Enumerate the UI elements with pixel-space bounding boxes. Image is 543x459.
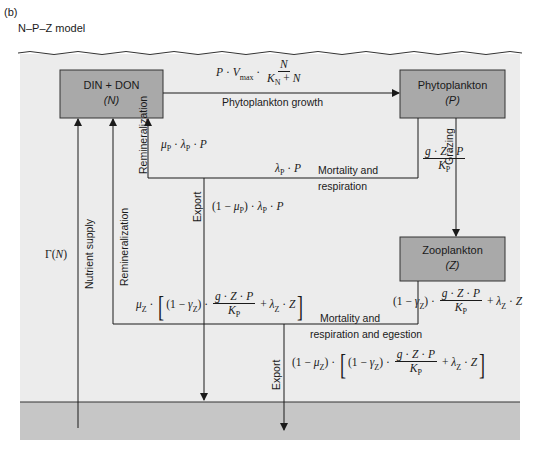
zoo-mortality-label-2: respiration and egestion [310, 328, 422, 340]
zooplankton-box-label: Zooplankton (Z) [400, 243, 505, 273]
nutrient-box-title: DIN + DON [60, 78, 163, 93]
phytoplankton-box-title: Phytoplankton [400, 78, 505, 93]
zoo-export-formula: (1 − μZ) · [(1 − γZ) · g · Z · PKP + λZ … [292, 348, 487, 379]
phyto-remin-label: Remineralization [137, 96, 149, 174]
supply-formula: Γ(N) [45, 248, 67, 260]
zooplankton-box-symbol: (Z) [400, 258, 505, 273]
deep-layer [20, 402, 520, 440]
phyto-mortality-label-2: respiration [318, 180, 367, 192]
phyto-export-formula: (1 − μP) · λP · P [212, 200, 284, 215]
zoo-export-label: Export [270, 360, 282, 390]
phyto-export-label: Export [191, 192, 203, 222]
zoo-remin-label: Remineralization [118, 208, 130, 286]
phyto-remin-formula: μP · λP · P [161, 138, 207, 153]
zoo-remin-formula: μZ · [(1 − γZ) · g · Z · PKP + λZ · Z] [136, 290, 305, 321]
phyto-mortality-label-1: Mortality and [318, 164, 378, 176]
growth-label: Phytoplankton growth [222, 96, 323, 108]
grazing-formula: g · Z · PKP [421, 145, 467, 176]
phyto-mortality-formula: λP · P [275, 162, 301, 177]
supply-label: Nutrient supply [83, 219, 95, 289]
zoo-mortality-label-1: Mortality and [320, 312, 380, 324]
zoo-mortality-formula: (1 − γZ) · g · Z · PKP + λZ · Z [393, 287, 522, 318]
zooplankton-box-title: Zooplankton [400, 243, 505, 258]
phytoplankton-box-symbol: (P) [400, 93, 505, 108]
phytoplankton-box-label: Phytoplankton (P) [400, 78, 505, 108]
growth-formula: P · Vmax · NKN + N [216, 58, 304, 89]
